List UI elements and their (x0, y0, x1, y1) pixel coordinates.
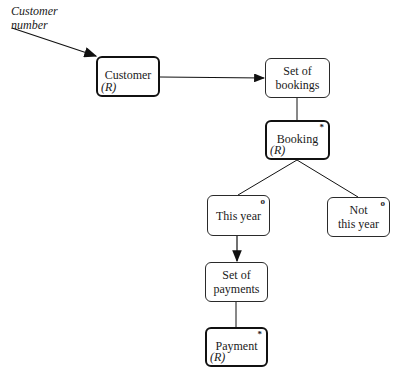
node-customer[interactable]: Customer (R) (96, 56, 160, 97)
node-label-line-1: Set of (214, 268, 260, 282)
node-label-line-1: Not (338, 203, 379, 217)
node-set-of-payments[interactable]: Set of payments (205, 262, 268, 302)
node-role: (R) (210, 351, 225, 363)
node-booking[interactable]: Booking * (R) (265, 120, 330, 160)
node-role: (R) (270, 144, 285, 156)
node-label-line-2: this year (338, 217, 379, 231)
edge-booking-this-year (238, 160, 297, 195)
node-this-year[interactable]: This year o (207, 195, 270, 236)
selection-marker: o (381, 199, 386, 208)
node-role: (R) (101, 81, 116, 93)
node-set-of-bookings[interactable]: Set of bookings (265, 58, 330, 98)
edge-customer-set-of-bookings (160, 77, 264, 78)
node-not-this-year[interactable]: Not this year o (327, 197, 390, 237)
node-label-line-2: payments (214, 282, 260, 296)
node-payment[interactable]: Payment * (R) (205, 327, 268, 367)
edge-input-customer (12, 28, 96, 56)
node-label: This year (216, 209, 261, 223)
node-label-line-1: Set of (275, 64, 319, 78)
selection-marker: o (261, 197, 266, 206)
input-label-line-2: number (11, 18, 58, 32)
input-label: Customer number (11, 4, 58, 32)
node-label-line-2: bookings (275, 78, 319, 92)
iteration-marker: * (258, 330, 263, 339)
input-label-line-1: Customer (11, 4, 58, 18)
connector-lines (0, 0, 404, 380)
edge-booking-not-this-year (297, 160, 358, 197)
iteration-marker: * (320, 123, 325, 132)
